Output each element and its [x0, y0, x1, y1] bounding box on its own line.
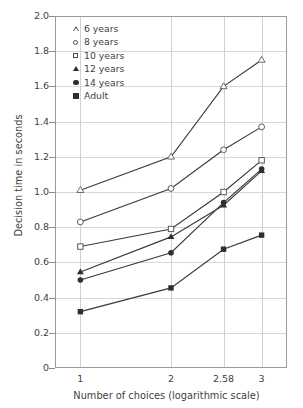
- legend-item-12-years[interactable]: 12 years: [73, 62, 124, 75]
- grid-line-vertical: [224, 17, 225, 367]
- legend-marker-square-open-icon: [73, 50, 84, 61]
- x-tick-label: 2: [168, 374, 174, 384]
- legend-item-8-years[interactable]: 8 years: [73, 35, 124, 48]
- marker-glyph: [73, 26, 79, 31]
- y-tick-label: 1.8: [34, 46, 49, 56]
- y-tick-mark: [49, 122, 55, 123]
- legend-label: 6 years: [84, 22, 118, 35]
- x-tick-label: 1: [77, 374, 83, 384]
- marker-glyph: [73, 53, 78, 58]
- y-tick-mark: [49, 51, 55, 52]
- x-tick-label: 3: [259, 374, 265, 384]
- y-tick-mark: [49, 262, 55, 263]
- marker-glyph: [73, 93, 79, 99]
- y-tick-mark: [49, 368, 55, 369]
- legend-item-10-years[interactable]: 10 years: [73, 49, 124, 62]
- y-tick-label: 1.2: [34, 152, 49, 162]
- y-tick-mark: [49, 192, 55, 193]
- legend-label: Adult: [84, 89, 108, 102]
- x-axis-title: Number of choices (logarithmic scale): [0, 390, 303, 401]
- y-axis-title: Decision time in seconds: [13, 96, 24, 256]
- y-tick-mark: [49, 298, 55, 299]
- y-tick-label: 0.2: [34, 328, 49, 338]
- chart-container: Decision time in seconds 00.20.40.60.81.…: [0, 0, 303, 408]
- legend-label: 14 years: [84, 76, 124, 89]
- legend-label: 12 years: [84, 62, 124, 75]
- y-tick-label: 0.6: [34, 257, 49, 267]
- y-tick-label: 0: [43, 363, 49, 373]
- marker-glyph: [73, 80, 79, 86]
- legend-marker-circle-filled-icon: [73, 77, 84, 88]
- y-tick-mark: [49, 157, 55, 158]
- marker-glyph: [73, 66, 79, 71]
- grid-line-vertical: [262, 17, 263, 367]
- legend-marker-triangle-open-icon: [73, 23, 84, 34]
- legend-label: 8 years: [84, 35, 118, 48]
- y-tick-label: 0.8: [34, 222, 49, 232]
- y-tick-label: 1.6: [34, 81, 49, 91]
- y-tick-label: 1.4: [34, 117, 49, 127]
- marker-glyph: [73, 40, 78, 45]
- y-tick-mark: [49, 333, 55, 334]
- x-tick-label: 2.58: [213, 374, 234, 384]
- legend-marker-circle-open-icon: [73, 37, 84, 48]
- legend-item-adult[interactable]: Adult: [73, 89, 124, 102]
- y-tick-mark: [49, 16, 55, 17]
- grid-line-vertical: [171, 17, 172, 367]
- y-tick-mark: [49, 86, 55, 87]
- y-tick-mark: [49, 227, 55, 228]
- legend-label: 10 years: [84, 49, 124, 62]
- y-tick-label: 2.0: [34, 11, 49, 21]
- legend-item-6-years[interactable]: 6 years: [73, 22, 124, 35]
- legend-item-14-years[interactable]: 14 years: [73, 76, 124, 89]
- legend-marker-triangle-filled-icon: [73, 63, 84, 74]
- y-tick-label: 0.4: [34, 293, 49, 303]
- y-tick-label: 1.0: [34, 187, 49, 197]
- legend-marker-square-filled-icon: [73, 90, 84, 101]
- legend: 6 years8 years10 years12 years14 yearsAd…: [73, 22, 124, 102]
